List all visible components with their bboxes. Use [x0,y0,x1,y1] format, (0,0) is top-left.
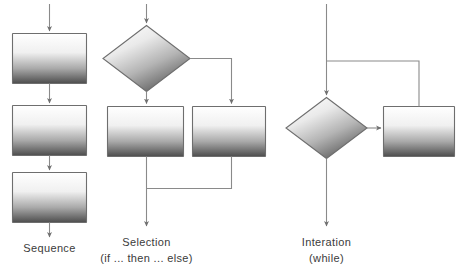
selection-group: Selection (if ... then ... else) [100,4,265,264]
selection-merge-path [147,157,232,189]
sequence-process-3[interactable] [13,173,87,223]
iteration-group: Interation (while) [286,4,455,264]
selection-else-process[interactable] [193,107,266,157]
sequence-process-1[interactable] [13,34,87,84]
selection-caption-line1: Selection [122,236,170,248]
sequence-process-2[interactable] [13,106,87,156]
iteration-loopback-path [327,61,420,107]
iteration-caption-line2: (while) [309,252,344,264]
selection-decision[interactable] [103,26,190,92]
selection-caption-line2: (if ... then ... else) [100,252,193,264]
iteration-caption-line1: Interation [302,236,351,248]
flowchart-diagram: Sequence Selection (if ... then ... else… [0,0,463,275]
selection-then-process[interactable] [108,107,184,157]
iteration-body-process[interactable] [384,107,455,157]
flowchart-canvas: Sequence Selection (if ... then ... else… [0,0,463,275]
sequence-group: Sequence [13,4,87,254]
sequence-caption-line1: Sequence [23,242,75,254]
selection-else-connector [190,59,232,104]
iteration-decision[interactable] [286,98,367,159]
